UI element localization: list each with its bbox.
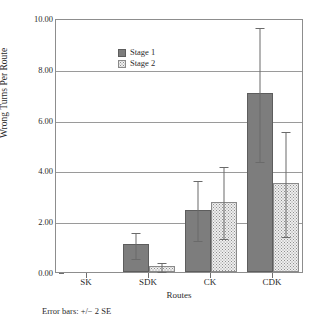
- error-bar-stem: [286, 132, 287, 239]
- y-axis-title: Wrong Turns Per Route: [0, 48, 9, 138]
- y-tick-label: 2.00: [38, 217, 53, 227]
- error-bar-stem: [260, 28, 261, 164]
- y-tick-label: 10.00: [34, 14, 53, 24]
- legend-label-stage-2: Stage 2: [130, 58, 155, 69]
- y-tick-label: 6.00: [38, 116, 53, 126]
- error-bar-sdk-stage-1: [123, 233, 149, 260]
- x-tick-label-sk: SK: [80, 277, 92, 287]
- x-tick-label-sdk: SDK: [139, 277, 157, 287]
- error-bar-cap-lower: [220, 239, 229, 240]
- error-bar-cap-lower: [282, 237, 291, 238]
- y-tick-label: 4.00: [38, 166, 53, 176]
- error-bar-cap-upper: [256, 28, 265, 29]
- error-bar-cdk-stage-1: [247, 28, 273, 164]
- bar-chart: Wrong Turns Per Route 0.002.004.006.008.…: [0, 0, 312, 327]
- x-axis-title: Routes: [166, 290, 191, 300]
- bars-layer: [56, 20, 302, 272]
- error-bar-stem: [224, 167, 225, 239]
- legend-item-stage-1: Stage 1: [118, 47, 155, 58]
- error-bar-cap-lower: [256, 162, 265, 163]
- error-bar-stem: [136, 233, 137, 260]
- error-bar-cap-upper: [158, 263, 167, 264]
- legend: Stage 1 Stage 2: [118, 47, 155, 69]
- x-tick-label-ck: CK: [204, 277, 217, 287]
- y-tick-label: 8.00: [38, 65, 53, 75]
- y-tick-label: 0.00: [38, 268, 53, 278]
- legend-swatch-stage-2-icon: [118, 60, 126, 68]
- legend-swatch-stage-1-icon: [118, 49, 126, 57]
- error-bar-cdk-stage-2: [273, 132, 299, 239]
- error-bar-footnote: Error bars: +/− 2 SE: [42, 306, 111, 316]
- error-bar-cap-lower: [158, 272, 167, 273]
- plot-area: Stage 1 Stage 2: [55, 19, 303, 273]
- y-tick-mark: [59, 273, 64, 274]
- error-bar-cap-upper: [132, 233, 141, 234]
- legend-label-stage-1: Stage 1: [130, 47, 155, 58]
- error-bar-stem: [198, 181, 199, 242]
- error-bar-cap-lower: [194, 241, 203, 242]
- error-bar-ck-stage-1: [185, 181, 211, 242]
- error-bar-cap-upper: [220, 167, 229, 168]
- x-tick-label-cdk: CDK: [262, 277, 281, 287]
- error-bar-cap-lower: [132, 259, 141, 260]
- error-bar-ck-stage-2: [211, 167, 237, 239]
- error-bar-cap-upper: [194, 181, 203, 182]
- error-bar-sdk-stage-2: [149, 263, 175, 273]
- legend-item-stage-2: Stage 2: [118, 58, 155, 69]
- error-bar-cap-upper: [282, 132, 291, 133]
